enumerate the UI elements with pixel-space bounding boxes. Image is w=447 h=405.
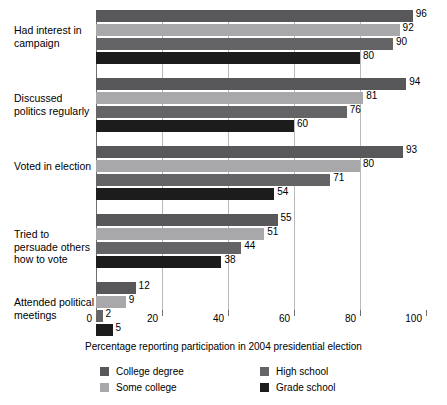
bar-value-label: 90: [393, 36, 407, 48]
plot-area: 9692908094817660938071545551443812925: [96, 10, 426, 310]
bar-group: 12925: [96, 282, 426, 338]
bar-value-label: 38: [221, 254, 235, 266]
bar[interactable]: [96, 78, 406, 90]
bar-row: 92: [96, 24, 426, 36]
legend-item[interactable]: High school: [260, 363, 420, 379]
legend-swatch-icon: [100, 383, 109, 392]
bar-value-label: 96: [413, 8, 427, 20]
bar-value-label: 5: [113, 322, 122, 334]
x-tick-label: 40: [213, 313, 228, 324]
bar-value-label: 71: [330, 172, 344, 184]
bar-row: 55: [96, 214, 426, 226]
legend-label: Some college: [116, 382, 177, 393]
bar[interactable]: [96, 106, 347, 118]
x-tick-80: [360, 310, 361, 316]
category-label: Discussed politics regularly: [14, 92, 94, 117]
bar[interactable]: [96, 160, 360, 172]
legend-label: Grade school: [276, 382, 335, 393]
legend-label: College degree: [116, 366, 184, 377]
x-tick-label: 60: [279, 313, 294, 324]
x-tick-40: [228, 310, 229, 316]
bar[interactable]: [96, 228, 264, 240]
x-tick-label: 20: [147, 313, 162, 324]
bar-value-label: 93: [403, 144, 417, 156]
legend-item[interactable]: College degree: [100, 363, 260, 379]
bar-row: 80: [96, 160, 426, 172]
legend-item[interactable]: Grade school: [260, 379, 420, 395]
bar-group: 93807154: [96, 146, 426, 202]
bar-row: 51: [96, 228, 426, 240]
bar[interactable]: [96, 92, 363, 104]
bar-row: 60: [96, 120, 426, 132]
bar-row: 9: [96, 296, 426, 308]
bar-row: 71: [96, 174, 426, 186]
bar-row: 12: [96, 282, 426, 294]
category-label: Had interest in campaign: [14, 24, 94, 49]
bar-value-label: 94: [406, 76, 420, 88]
bar[interactable]: [96, 242, 241, 254]
bar-value-label: 80: [360, 50, 374, 62]
category-label: Attended political meetings: [14, 296, 94, 321]
bar[interactable]: [96, 146, 403, 158]
bar-row: 81: [96, 92, 426, 104]
bar-row: 76: [96, 106, 426, 118]
bar-group: 55514438: [96, 214, 426, 270]
legend-swatch-icon: [260, 367, 269, 376]
bar-group: 96929080: [96, 10, 426, 66]
bar[interactable]: [96, 10, 413, 22]
x-tick-100: [426, 310, 427, 316]
bar-value-label: 44: [241, 240, 255, 252]
x-tick-label: 0: [86, 313, 96, 324]
bar[interactable]: [96, 256, 221, 268]
bar-value-label: 60: [294, 118, 308, 130]
x-tick-60: [294, 310, 295, 316]
chart-legend: College degreeHigh schoolSome collegeGra…: [100, 363, 400, 395]
bar-value-label: 76: [347, 104, 361, 116]
bar-row: 2: [96, 310, 426, 322]
bar[interactable]: [96, 24, 400, 36]
category-label: Voted in election: [14, 160, 94, 173]
x-tick-label: 100: [405, 313, 426, 324]
bar-row: 5: [96, 324, 426, 336]
bar[interactable]: [96, 214, 278, 226]
x-axis-title: Percentage reporting participation in 20…: [0, 341, 447, 352]
bar[interactable]: [96, 282, 136, 294]
bar[interactable]: [96, 174, 330, 186]
x-tick-0: [96, 310, 97, 316]
bar-value-label: 92: [400, 22, 414, 34]
bar-value-label: 55: [278, 212, 292, 224]
bar-row: 94: [96, 78, 426, 90]
legend-swatch-icon: [260, 383, 269, 392]
chart-page: 9692908094817660938071545551443812925 Ha…: [0, 0, 447, 405]
bar[interactable]: [96, 188, 274, 200]
bar-row: 80: [96, 52, 426, 64]
bar-row: 54: [96, 188, 426, 200]
bar-value-label: 9: [126, 294, 135, 306]
legend-item[interactable]: Some college: [100, 379, 260, 395]
bar-value-label: 81: [363, 90, 377, 102]
bar[interactable]: [96, 120, 294, 132]
bar-value-label: 80: [360, 158, 374, 170]
legend-swatch-icon: [100, 367, 109, 376]
bar[interactable]: [96, 296, 126, 308]
legend-label: High school: [276, 366, 328, 377]
bar[interactable]: [96, 324, 113, 336]
bar-row: 96: [96, 10, 426, 22]
bar-group: 94817660: [96, 78, 426, 134]
bar-row: 44: [96, 242, 426, 254]
bar[interactable]: [96, 38, 393, 50]
bar-row: 93: [96, 146, 426, 158]
bar-value-label: 54: [274, 186, 288, 198]
x-tick-label: 80: [345, 313, 360, 324]
category-label: Tried to persuade others how to vote: [14, 228, 94, 266]
bar-row: 38: [96, 256, 426, 268]
bar-value-label: 2: [103, 308, 112, 320]
bar-value-label: 12: [136, 280, 150, 292]
x-tick-20: [162, 310, 163, 316]
bar[interactable]: [96, 52, 360, 64]
bar-row: 90: [96, 38, 426, 50]
bar-value-label: 51: [264, 226, 278, 238]
